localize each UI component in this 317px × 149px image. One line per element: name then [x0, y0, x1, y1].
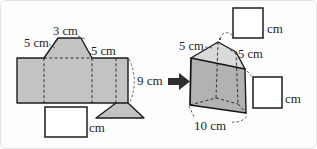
prism-side-box-leader: [247, 71, 253, 78]
right-arrow-icon: [168, 73, 190, 90]
prism-side-answer-box: [253, 77, 282, 108]
net-top-edge-label: 3 cm: [53, 24, 78, 38]
diagram-svg: 3 cm 5 cm 5 cm 9 cm cm 5 cm 5 cm 10: [1, 1, 317, 149]
transform-arrow: [168, 73, 190, 90]
prism-top-box-leader: [220, 33, 233, 39]
net-right-slant-label: 5 cm: [91, 44, 116, 58]
prism-top-answer-unit-label: cm: [267, 21, 283, 36]
net-answer-box-unit-label: cm: [89, 120, 105, 135]
prism-top-right-edge-label: 5 cm: [238, 47, 263, 61]
prism-top-answer-box: [233, 8, 263, 38]
prism-bottom-edge-label: 10 cm: [194, 118, 226, 133]
prism-top-left-edge-label: 5 cm: [179, 39, 204, 53]
net-answer-box: [45, 107, 87, 137]
prism-figure: 5 cm 5 cm 10 cm cm cm: [179, 8, 301, 133]
net-height-brace-arc: [129, 59, 134, 102]
geometry-worksheet-diagram: 3 cm 5 cm 5 cm 9 cm cm 5 cm 5 cm 10: [0, 0, 317, 149]
net-figure: 3 cm 5 cm 5 cm 9 cm cm: [17, 24, 163, 137]
net-left-slant-label: 5 cm: [24, 36, 49, 50]
prism-bottom-label-leader-left: [189, 106, 194, 117]
prism-bottom-label-leader-right: [232, 115, 248, 122]
net-strip-face: [17, 58, 128, 103]
prism-side-answer-unit-label: cm: [285, 91, 301, 106]
net-strip-height-label: 9 cm: [137, 73, 163, 88]
